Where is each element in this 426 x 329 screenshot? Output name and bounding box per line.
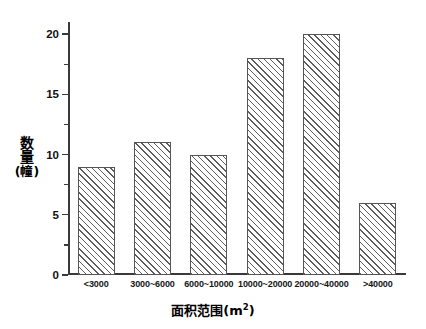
- x-axis-tick-label: 20000~40000: [294, 279, 348, 289]
- bar: [190, 155, 227, 275]
- bar: [303, 34, 340, 275]
- bar: [359, 203, 396, 275]
- bar-chart-figure: 数 量 (幢) 05101520 <30003000~60006000~1000…: [0, 0, 426, 329]
- y-axis-minor-tick: [64, 64, 68, 65]
- y-axis-major-tick: [62, 94, 68, 95]
- y-axis-title: 数 量 (幢): [8, 136, 46, 178]
- x-axis-title-text: 面积范围: [171, 303, 223, 318]
- y-axis-major-tick: [62, 214, 68, 215]
- y-axis-title-unit: (幢): [8, 166, 46, 179]
- x-axis-tick-label: 3000~6000: [130, 279, 174, 289]
- x-axis-unit-close: ): [249, 303, 255, 318]
- y-axis-minor-tick: [64, 244, 68, 245]
- x-axis-line: [68, 273, 406, 275]
- y-axis-tick-label: 0: [53, 269, 59, 281]
- x-axis-tick-label: >40000: [363, 279, 393, 289]
- y-axis-title-char-1: 数: [8, 136, 46, 150]
- x-axis-unit-open: (m: [223, 303, 243, 318]
- y-axis-major-tick: [62, 33, 68, 34]
- y-axis-minor-tick: [64, 184, 68, 185]
- y-axis-tick-label: 15: [46, 88, 59, 100]
- y-axis-tick-label: 20: [46, 28, 59, 40]
- x-axis-tick-label: 6000~10000: [184, 279, 233, 289]
- plot-area: 05101520 <30003000~60006000~1000010000~2…: [68, 22, 406, 275]
- y-axis-tick-label: 10: [46, 149, 59, 161]
- y-axis-minor-tick: [64, 124, 68, 125]
- x-axis-tick-label: 10000~20000: [238, 279, 292, 289]
- y-axis-line: [68, 22, 70, 275]
- y-axis-major-tick: [62, 274, 68, 275]
- y-axis-major-tick: [62, 154, 68, 155]
- x-axis-tick-label: <3000: [84, 279, 109, 289]
- bar: [78, 167, 115, 275]
- y-axis-tick-label: 5: [53, 209, 59, 221]
- x-axis-title: 面积范围(m2): [0, 300, 426, 319]
- bar: [247, 58, 284, 275]
- bar: [134, 142, 171, 275]
- y-axis-title-char-2: 量: [8, 150, 46, 164]
